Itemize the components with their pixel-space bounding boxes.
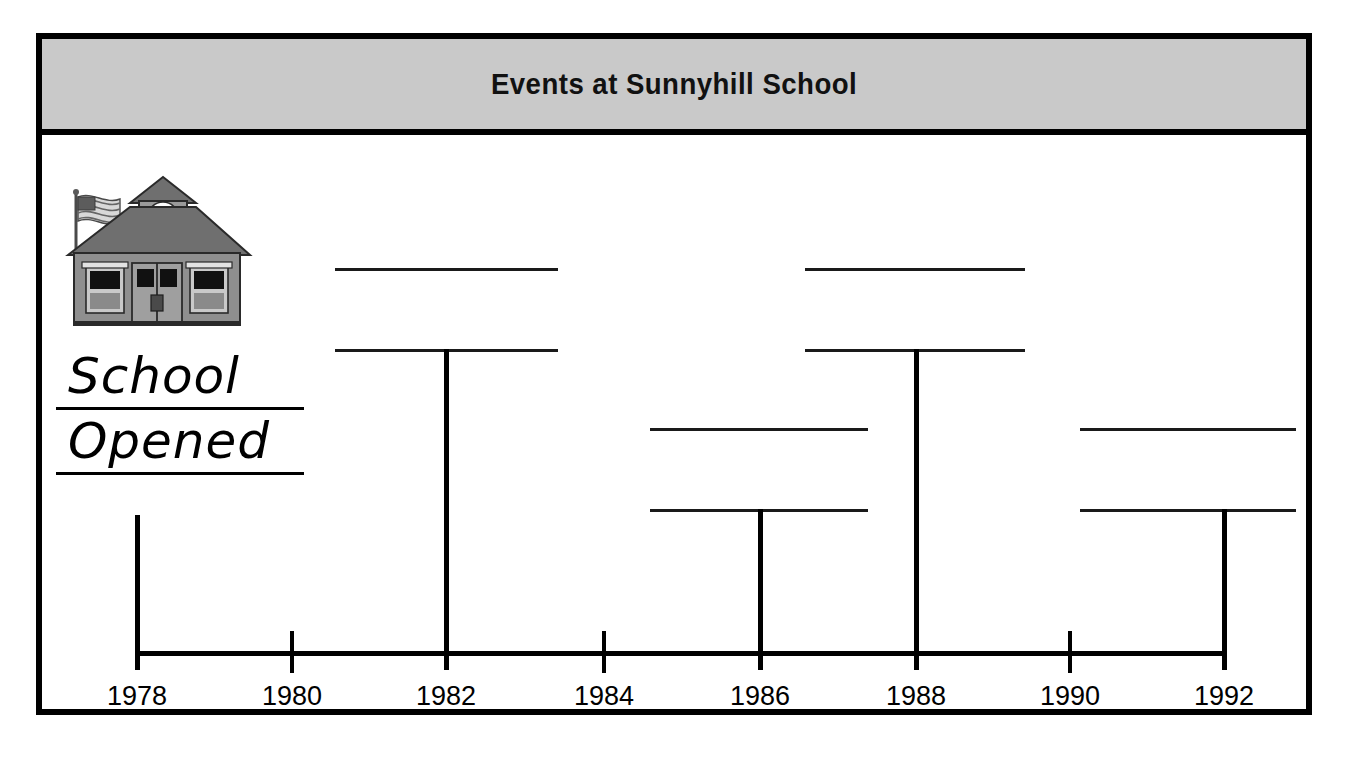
timeline-area: School Opened 19781980198219841986198819… (42, 135, 1306, 709)
axis-line (135, 651, 1227, 656)
axis-tick-1990 (1068, 631, 1072, 673)
school-opened-line1: School (56, 351, 304, 405)
year-label-1990: 1990 (1040, 681, 1100, 712)
axis-tick-1984 (602, 631, 606, 673)
year-label-1978: 1978 (107, 681, 167, 712)
worksheet-frame: Events at Sunnyhill School (36, 33, 1312, 715)
event-callout-1988[interactable] (805, 268, 1025, 352)
callout-rule-bottom (1080, 509, 1296, 512)
year-label-1984: 1984 (574, 681, 634, 712)
year-label-1988: 1988 (886, 681, 946, 712)
year-label-1982: 1982 (416, 681, 476, 712)
event-stem-1988 (914, 349, 919, 670)
callout-rule-top (805, 268, 1025, 271)
year-label-1986: 1986 (730, 681, 790, 712)
year-label-1980: 1980 (262, 681, 322, 712)
event-stem-1982 (444, 349, 449, 670)
school-opened-line2: Opened (56, 416, 304, 470)
callout-rule-top (1080, 428, 1296, 431)
event-stem-1986 (758, 509, 763, 670)
event-stem-1978 (135, 515, 140, 670)
school-opened-rule-1 (56, 407, 304, 410)
event-callout-1992[interactable] (1080, 428, 1296, 512)
callout-rule-top (335, 268, 558, 271)
event-callout-1982[interactable] (335, 268, 558, 352)
event-callout-1986[interactable] (650, 428, 868, 512)
event-stem-1992 (1222, 509, 1227, 670)
title-band: Events at Sunnyhill School (42, 39, 1306, 135)
school-opened-rule-2 (56, 472, 304, 475)
callout-rule-top (650, 428, 868, 431)
axis-tick-1980 (290, 631, 294, 673)
school-opened-label: School Opened (56, 351, 304, 481)
schoolhouse-icon (60, 163, 254, 331)
page-title: Events at Sunnyhill School (491, 67, 857, 101)
year-label-1992: 1992 (1194, 681, 1254, 712)
